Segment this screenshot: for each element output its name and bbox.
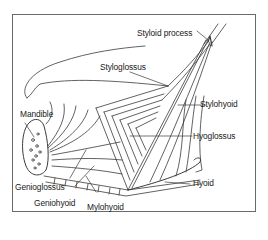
label-styloglossus: Styloglossus [100, 63, 146, 71]
genioglossus-fibers [48, 104, 122, 174]
label-styloid-process: Styloid process [137, 29, 192, 37]
hyoglossus-fibers [96, 86, 168, 190]
label-genioglossus: Genioglossus [15, 183, 65, 191]
label-hyoglossus: Hyoglossus [193, 132, 235, 140]
floor-muscles [44, 176, 200, 196]
label-stylohyoid: Stylohyoid [200, 100, 238, 108]
label-mylohyoid: Mylohyoid [87, 203, 124, 211]
label-mandible: Mandible [20, 110, 53, 118]
label-hyoid: Hyoid [193, 179, 214, 187]
label-geniohyoid: Geniohyoid [34, 199, 75, 207]
tongue-outline [25, 46, 168, 98]
